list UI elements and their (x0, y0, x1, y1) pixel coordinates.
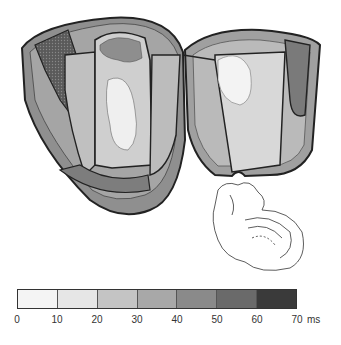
left-ventricle-section (22, 18, 185, 215)
legend-segment-10-20 (58, 290, 98, 308)
legend-tick-label: 50 (211, 314, 222, 325)
legend-segment-0-10 (18, 290, 58, 308)
heart-activation-map (0, 0, 341, 285)
color-legend-bar (17, 289, 297, 309)
legend-unit-label: ms (307, 314, 320, 325)
legend-segment-50-60 (217, 290, 257, 308)
heart-orientation-inset (213, 183, 303, 271)
legend-tick-label: 30 (131, 314, 142, 325)
legend-tick-label: 20 (91, 314, 102, 325)
legend-tick-label: 0 (14, 314, 20, 325)
legend-tick-label: 70 (291, 314, 302, 325)
right-ventricle-section (183, 30, 320, 176)
legend-tick-label: 10 (51, 314, 62, 325)
legend-tick-label: 60 (251, 314, 262, 325)
legend-tick-label: 40 (171, 314, 182, 325)
legend-segment-40-50 (177, 290, 217, 308)
legend-segment-60-70 (257, 290, 296, 308)
activation-map-figure: 0 10 20 30 40 50 60 70 ms (0, 0, 341, 345)
legend-segment-20-30 (98, 290, 138, 308)
legend-segment-30-40 (138, 290, 178, 308)
